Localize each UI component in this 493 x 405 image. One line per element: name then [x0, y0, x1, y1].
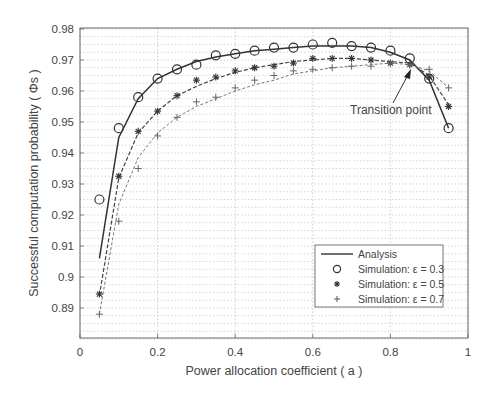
legend: Analysis Simulation: ε = 0.3 Simulation:…: [315, 245, 444, 307]
x-tick-label: 0.2: [150, 346, 166, 358]
asterisk-marker: [154, 108, 161, 115]
asterisk-marker: [368, 57, 375, 64]
legend-eps05-label: Simulation: ε = 0.5: [358, 278, 444, 290]
y-tick-label: 0.96: [52, 85, 74, 97]
legend-analysis-label: Analysis: [358, 248, 397, 260]
asterisk-marker: [174, 92, 181, 99]
y-tick-label: 0.98: [52, 23, 74, 35]
y-axis-label: Successful computation probability ( Φs …: [27, 69, 41, 296]
x-tick-label: 0.8: [382, 346, 398, 358]
y-tick-label: 0.97: [52, 54, 74, 66]
asterisk-marker: [232, 67, 239, 74]
y-tick-label: 0.89: [52, 302, 74, 314]
y-tick-label: 0.9: [58, 271, 74, 283]
asterisk-marker: [309, 55, 316, 62]
y-tick-label: 0.95: [52, 116, 74, 128]
asterisk-marker: [193, 77, 200, 84]
x-tick-label: 1: [465, 346, 471, 358]
asterisk-marker: [329, 55, 336, 62]
y-tick-label: 0.92: [52, 209, 74, 221]
asterisk-marker: [348, 55, 355, 62]
x-tick-label: 0.4: [227, 346, 244, 358]
asterisk-marker: [290, 60, 297, 67]
x-tick-label: 0.6: [305, 346, 321, 358]
asterisk-marker: [426, 74, 433, 81]
x-tick-label: 0: [77, 346, 83, 358]
legend-eps07-label: Simulation: ε = 0.7: [358, 293, 444, 305]
x-axis-label: Power allocation coefficient ( a ): [186, 364, 363, 378]
y-tick-label: 0.91: [52, 240, 74, 252]
annotation-text: Transition point: [350, 103, 432, 117]
asterisk-marker: [251, 64, 258, 71]
asterisk-marker: [212, 74, 219, 81]
asterisk-marker: [135, 128, 142, 135]
chart: 00.20.40.60.810.890.90.910.920.930.940.9…: [0, 0, 493, 405]
asterisk-marker: [271, 63, 278, 70]
asterisk-marker: [115, 173, 122, 180]
asterisk-marker: [96, 291, 103, 298]
legend-eps03-label: Simulation: ε = 0.3: [358, 263, 444, 275]
y-tick-label: 0.94: [52, 147, 75, 159]
y-tick-label: 0.93: [52, 178, 74, 190]
asterisk-marker: [445, 103, 452, 110]
